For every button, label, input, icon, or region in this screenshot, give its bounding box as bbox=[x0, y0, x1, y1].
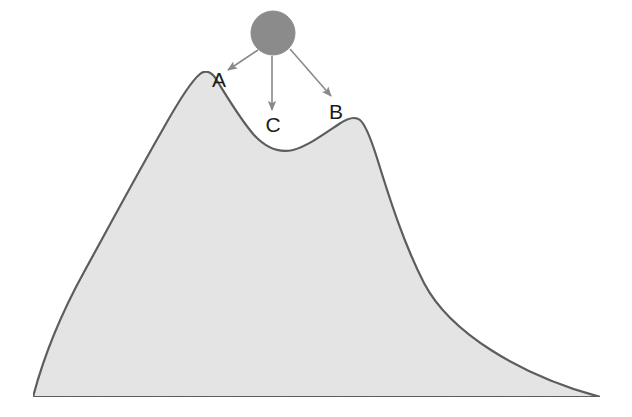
point-label-c: C bbox=[265, 113, 280, 136]
gray-ball-icon bbox=[251, 11, 295, 55]
point-label-a: A bbox=[212, 68, 226, 91]
point-label-b: B bbox=[329, 100, 343, 123]
figure-root: A B C bbox=[0, 0, 632, 417]
mountain-diagram-svg: A B C bbox=[0, 0, 632, 417]
